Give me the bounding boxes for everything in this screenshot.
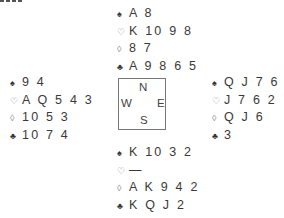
- spade-icon: ♠: [212, 75, 224, 93]
- diamond-icon: ◊: [117, 41, 129, 59]
- north-hearts-cards: K 10 9 8: [129, 24, 193, 38]
- south-spades-row: ♠K 10 3 2: [117, 144, 200, 162]
- north-clubs-row: ♣A 9 8 6 5: [117, 58, 198, 76]
- north-diamonds-row: ◊8 7: [117, 40, 198, 58]
- south-diamonds-row: ◊A K 9 4 2: [117, 179, 200, 197]
- north-spades-row: ♠A 8: [117, 5, 198, 23]
- north-clubs-cards: A 9 8 6 5: [129, 59, 198, 73]
- east-diamonds-row: ◊Q J 6: [212, 109, 284, 127]
- compass-south-label: S: [140, 114, 148, 126]
- east-hand: ♠Q J 7 6 5 ♡J 7 6 2 ◊Q J 6 ♣3: [212, 74, 284, 144]
- compass-west-label: W: [121, 97, 132, 109]
- north-hand: ♠A 8 ♡K 10 9 8 ◊8 7 ♣A 9 8 6 5: [117, 5, 198, 75]
- heart-icon: ♡: [212, 93, 224, 111]
- west-hand: ♠9 4 ♡A Q 5 4 3 ◊10 5 3 ♣10 7 4: [10, 74, 94, 144]
- heart-icon: ♡: [117, 163, 129, 181]
- spade-icon: ♠: [117, 145, 129, 163]
- east-clubs-cards: 3: [224, 128, 233, 142]
- south-clubs-row: ♣K Q J 2: [117, 197, 200, 215]
- east-hearts-cards: J 7 6 2: [224, 93, 277, 107]
- diamond-icon: ◊: [212, 110, 224, 128]
- spade-icon: ♠: [10, 75, 22, 93]
- north-hearts-row: ♡K 10 9 8: [117, 23, 198, 41]
- south-hearts-cards: —: [129, 163, 144, 177]
- club-icon: ♣: [117, 198, 129, 216]
- cropped-text-fragment: [0, 0, 22, 2]
- west-hearts-row: ♡A Q 5 4 3: [10, 92, 94, 110]
- east-hearts-row: ♡J 7 6 2: [212, 92, 284, 110]
- diamond-icon: ◊: [10, 110, 22, 128]
- west-clubs-cards: 10 7 4: [22, 128, 70, 142]
- east-spades-cards: Q J 7 6 5: [224, 75, 284, 89]
- west-clubs-row: ♣10 7 4: [10, 127, 94, 145]
- heart-icon: ♡: [10, 93, 22, 111]
- spade-icon: ♠: [117, 6, 129, 24]
- compass-box: N W E S: [118, 78, 166, 130]
- north-spades-cards: A 8: [129, 6, 154, 20]
- club-icon: ♣: [117, 59, 129, 77]
- heart-icon: ♡: [117, 24, 129, 42]
- diamond-icon: ◊: [117, 180, 129, 198]
- west-diamonds-cards: 10 5 3: [22, 110, 70, 124]
- compass-east-label: E: [157, 97, 165, 109]
- south-hand: ♠K 10 3 2 ♡— ◊A K 9 4 2 ♣K Q J 2: [117, 144, 200, 214]
- north-diamonds-cards: 8 7: [129, 41, 153, 55]
- club-icon: ♣: [10, 128, 22, 146]
- west-diamonds-row: ◊10 5 3: [10, 109, 94, 127]
- south-hearts-row: ♡—: [117, 162, 200, 180]
- compass-north-label: N: [139, 81, 147, 93]
- east-spades-row: ♠Q J 7 6 5: [212, 74, 284, 92]
- south-diamonds-cards: A K 9 4 2: [129, 180, 200, 194]
- west-spades-row: ♠9 4: [10, 74, 94, 92]
- east-clubs-row: ♣3: [212, 127, 284, 145]
- south-clubs-cards: K Q J 2: [129, 198, 186, 212]
- club-icon: ♣: [212, 128, 224, 146]
- west-spades-cards: 9 4: [22, 75, 46, 89]
- south-spades-cards: K 10 3 2: [129, 145, 193, 159]
- east-diamonds-cards: Q J 6: [224, 110, 265, 124]
- west-hearts-cards: A Q 5 4 3: [22, 93, 94, 107]
